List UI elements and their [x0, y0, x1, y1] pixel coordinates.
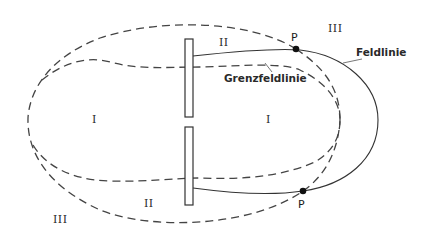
field-diagram: P P I I II II III III Feldlinie Grenzfel…: [0, 0, 423, 238]
region-iii-bottom: III: [53, 213, 68, 226]
feldlinie-label: Feldlinie: [356, 46, 406, 58]
capacitor-plate-top: [185, 39, 193, 117]
region-ii-bottom: II: [144, 197, 154, 210]
point-p-top: [293, 46, 300, 53]
region-i-left: I: [92, 113, 97, 126]
point-p-bottom: [300, 188, 307, 195]
grenzfeldlinie-label: Grenzfeldlinie: [224, 72, 307, 84]
upper-p-boundary: [296, 49, 340, 120]
region-i-right: I: [266, 113, 271, 126]
capacitor-plate-bottom: [185, 127, 193, 205]
region-ii-top: II: [219, 36, 229, 49]
region-iii-top: III: [328, 22, 343, 35]
point-p-top-label: P: [291, 31, 298, 44]
grenzfeldlinie-leader: [265, 63, 272, 72]
outer-boundary-line: [28, 25, 303, 223]
feldlinie-leader: [343, 59, 362, 63]
lower-p-boundary: [303, 120, 340, 191]
point-p-bottom-label: P: [298, 198, 305, 211]
